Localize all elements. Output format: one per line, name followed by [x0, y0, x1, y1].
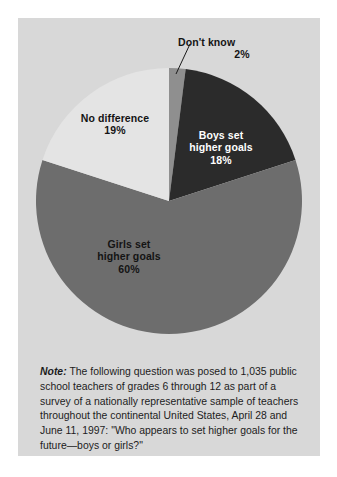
- pie-label-no-difference-text: No difference: [81, 112, 149, 124]
- pie-chart: Don't know 2% Boys set higher goals 18% …: [18, 18, 320, 338]
- note-lead-word: Note:: [40, 366, 67, 377]
- pie-label-dont-know-value: 2%: [178, 48, 298, 60]
- pie-label-girls-value: 60%: [64, 263, 194, 275]
- pie-chart-svg: [18, 18, 320, 338]
- pie-label-boys: Boys set higher goals 18%: [166, 129, 276, 166]
- pie-label-boys-line2: higher goals: [189, 141, 253, 153]
- pie-label-girls-line2: higher goals: [97, 250, 161, 262]
- figure-panel: Don't know 2% Boys set higher goals 18% …: [18, 18, 320, 456]
- pie-label-boys-value: 18%: [166, 154, 276, 166]
- pie-label-girls-line1: Girls set: [108, 238, 151, 250]
- pie-label-no-difference-value: 19%: [49, 124, 181, 136]
- note-block: Note: The following question was posed t…: [40, 365, 302, 454]
- pie-label-dont-know: Don't know 2%: [178, 36, 298, 61]
- pie-label-no-difference: No difference 19%: [49, 112, 181, 137]
- pie-label-dont-know-text: Don't know: [178, 36, 235, 48]
- note-body: The following question was posed to 1,03…: [40, 366, 298, 451]
- pie-label-boys-line1: Boys set: [199, 129, 244, 141]
- pie-label-girls: Girls set higher goals 60%: [64, 238, 194, 275]
